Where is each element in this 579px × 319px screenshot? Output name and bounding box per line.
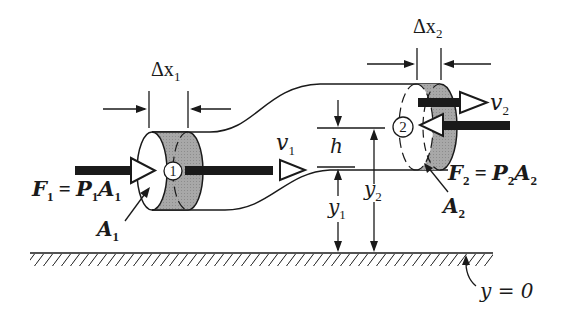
label-h: h <box>330 134 343 158</box>
bernoulli-pipe-diagram: 1 2 Δx1 Δx2 h <box>0 0 579 319</box>
label-v2: v2 <box>490 90 509 118</box>
section-marker-1: 1 <box>164 162 182 180</box>
label-a2: A2 <box>441 194 465 221</box>
label-a1: A1 <box>95 217 119 244</box>
label-y1: y1 <box>327 195 346 222</box>
ground-hatching <box>30 254 493 266</box>
ground <box>30 253 493 266</box>
dimension-dx2 <box>367 48 491 80</box>
section-1-number: 1 <box>170 164 177 179</box>
section-marker-2: 2 <box>393 117 413 137</box>
label-f1-equation: F1 = P1A1 <box>31 176 121 204</box>
label-y2: y2 <box>363 177 382 204</box>
label-dx2: Δx2 <box>413 15 442 41</box>
label-y-zero: y = 0 <box>479 279 534 303</box>
dimension-dx1 <box>103 91 231 128</box>
label-f2-equation: F2 = P2A2 <box>447 160 537 188</box>
label-dx1: Δx1 <box>151 58 180 84</box>
section-2-number: 2 <box>399 119 407 135</box>
label-v1: v1 <box>276 130 295 158</box>
diagram-canvas: 1 2 Δx1 Δx2 h <box>0 0 579 319</box>
